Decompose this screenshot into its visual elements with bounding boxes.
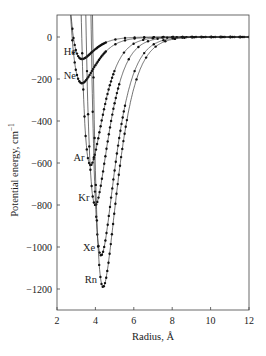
data-point-kr [166, 37, 168, 39]
data-point-ar [132, 43, 134, 45]
data-point-kr [116, 92, 118, 94]
data-point-xe [115, 161, 117, 163]
data-point-kr [101, 178, 103, 180]
data-point-rn [111, 233, 113, 235]
data-point-xe [119, 130, 121, 132]
data-point-kr [107, 140, 109, 142]
y-tick-label: −1000 [26, 242, 52, 253]
data-point-kr [110, 120, 112, 122]
data-point-kr [128, 58, 130, 60]
data-point-rn [193, 36, 195, 38]
y-axis-label-superscript: −1 [7, 123, 16, 131]
data-point-rn [108, 253, 110, 255]
plot-frame [57, 15, 249, 310]
data-point-kr [117, 87, 119, 89]
data-point-he [124, 37, 126, 39]
data-point-xe [133, 70, 135, 72]
data-point-rn [97, 245, 99, 247]
data-point-rn [222, 36, 224, 38]
data-point-xe [111, 187, 113, 189]
data-point-ar [102, 114, 104, 116]
data-point-ar [105, 98, 107, 100]
data-point-xe [117, 144, 119, 146]
data-point-rn [112, 223, 114, 225]
curve-ar [81, 0, 249, 165]
data-point-xe [143, 52, 145, 54]
data-point-xe [103, 246, 105, 248]
data-point-xe [109, 206, 111, 208]
data-point-kr [87, 113, 89, 115]
potential-energy-chart: 24681012 0−200−400−600−800−1000−1200 HeN… [0, 0, 266, 356]
data-point-ar [81, 52, 83, 54]
data-point-kr [90, 185, 92, 187]
data-point-ar [103, 108, 105, 110]
data-point-kr [108, 133, 110, 135]
data-point-ar [96, 143, 98, 145]
data-point-xe [107, 224, 109, 226]
x-tick-label: 2 [55, 315, 60, 326]
data-point-rn [203, 36, 205, 38]
data-point-xe [123, 110, 125, 112]
y-tick-label: 0 [47, 32, 52, 43]
y-tick-label: −200 [31, 74, 52, 85]
data-point-xe [102, 251, 104, 253]
data-point-xe [116, 152, 118, 154]
data-point-ne [71, 39, 73, 41]
data-point-rn [106, 270, 108, 272]
data-point-rn [135, 78, 137, 80]
data-point-ne [77, 78, 79, 80]
data-point-xe [118, 137, 120, 139]
series-label-kr: Kr [78, 192, 90, 203]
data-point-ar [101, 119, 103, 121]
data-point-ar [91, 161, 93, 163]
data-point-rn [241, 36, 243, 38]
data-point-xe [101, 254, 103, 256]
data-point-rn [119, 165, 121, 167]
data-point-ne [105, 50, 107, 52]
data-point-ar [110, 80, 112, 82]
data-point-he [114, 38, 116, 40]
data-point-rn [113, 213, 115, 215]
data-point-rn [123, 133, 125, 135]
data-point-kr [89, 169, 91, 171]
data-point-rn [231, 36, 233, 38]
data-point-rn [118, 174, 120, 176]
data-point-rn [103, 285, 105, 287]
data-point-xe [113, 169, 115, 171]
data-point-rn [100, 283, 102, 285]
data-point-xe [90, 51, 92, 53]
curve-xe [90, 0, 249, 255]
data-point-kr [113, 102, 115, 104]
data-point-xe [124, 105, 126, 107]
data-point-xe [110, 196, 112, 198]
y-tick-label: −600 [31, 158, 52, 169]
data-point-kr [115, 97, 117, 99]
series-label-he: He [64, 46, 77, 57]
data-point-kr [109, 126, 111, 128]
data-point-ar [112, 73, 114, 75]
data-point-kr [105, 148, 107, 150]
data-point-ar [90, 164, 92, 166]
data-point-rn [92, 76, 94, 78]
data-point-ne [124, 39, 126, 41]
data-point-rn [164, 40, 166, 42]
data-point-ar [82, 88, 84, 90]
data-point-xe [153, 43, 155, 45]
data-point-ne [88, 74, 90, 76]
data-point-kr [102, 170, 104, 172]
data-point-kr [111, 113, 113, 115]
data-point-kr [88, 145, 90, 147]
data-point-xe [92, 111, 94, 113]
data-point-kr [112, 108, 114, 110]
data-point-rn [125, 126, 127, 128]
data-point-ar [86, 148, 88, 150]
x-tick-label: 6 [131, 315, 136, 326]
data-point-xe [105, 232, 107, 234]
data-point-kr [100, 185, 102, 187]
data-point-ne [74, 61, 76, 63]
series-label-ne: Ne [64, 70, 77, 81]
data-point-kr [103, 163, 105, 165]
data-point-rn [93, 137, 95, 139]
data-point-ne [114, 43, 116, 45]
data-point-rn [121, 148, 123, 150]
